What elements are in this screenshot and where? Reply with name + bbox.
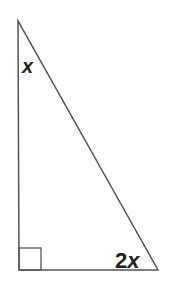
diagram-canvas: x 2x [0, 0, 196, 299]
angle-label-bottom-right: 2x [115, 248, 140, 273]
right-triangle-figure: x 2x [0, 0, 196, 299]
angle-bottom-right-var: x [126, 248, 140, 273]
angle-bottom-right-coeff: 2 [115, 248, 127, 273]
angle-label-top: x [21, 55, 34, 77]
angle-top-var: x [21, 55, 34, 77]
right-angle-marker [19, 248, 41, 270]
triangle-outline [18, 21, 158, 270]
